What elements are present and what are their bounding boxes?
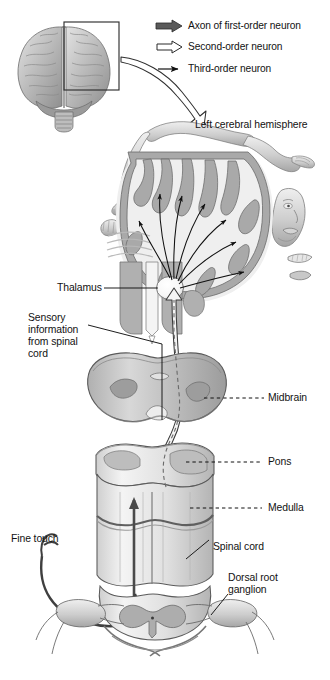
medulla-section	[97, 474, 213, 586]
homunculus-teeth	[288, 254, 312, 262]
label-left-cerebral-hemisphere: Left cerebral hemisphere	[195, 119, 308, 131]
label-medulla: Medulla	[268, 502, 304, 514]
homunculus-tongue	[290, 271, 311, 280]
label-pons: Pons	[268, 456, 291, 468]
label-thalamus: Thalamus	[57, 282, 102, 294]
cerebral-section	[101, 122, 315, 344]
homunculus-face	[272, 188, 305, 246]
label-dorsal-root-ganglion: Dorsal root ganglion	[228, 572, 278, 596]
legend-glyph-second-order	[157, 41, 182, 53]
spinal-cord-section	[36, 586, 274, 656]
legend-glyph-first-order	[156, 20, 182, 32]
legend-label-third-order: Third-order neuron	[188, 63, 271, 74]
label-fine-touch: Fine touch	[11, 533, 59, 545]
legend-label-second-order: Second-order neuron	[188, 41, 282, 52]
label-spinal-cord: Spinal cord	[213, 541, 264, 553]
label-midbrain: Midbrain	[268, 392, 307, 404]
label-sensory-information: Sensory information from spinal cord	[28, 312, 78, 360]
midbrain-section	[88, 353, 227, 422]
pons-section	[96, 443, 214, 487]
figure-canvas: Axon of first-order neuron Second-order …	[0, 0, 330, 680]
legend-label-first-order: Axon of first-order neuron	[188, 20, 301, 31]
